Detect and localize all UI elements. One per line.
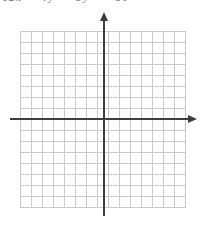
clipped-equation-text: 12x - 4y + 3y = -36 [2, 0, 129, 3]
x-axis-right-arrowhead-icon [188, 115, 197, 123]
y-axis-up-arrowhead-icon [100, 12, 108, 21]
worksheet-figure: 12x - 4y + 3y = -36 [0, 0, 208, 226]
x-axis-line [10, 118, 189, 120]
